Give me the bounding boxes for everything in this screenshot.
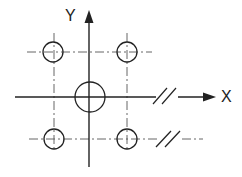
holes: [43, 42, 137, 149]
break-marks: [153, 88, 180, 147]
y-axis-label: Y: [65, 8, 76, 24]
x-axis-arrowhead-icon: [203, 93, 216, 102]
centerline-break-mark-icon: [156, 131, 180, 147]
y-axis-arrowhead-icon: [85, 10, 94, 23]
x-axis-break-mark-icon: [153, 88, 178, 104]
x-axis-label: X: [221, 89, 232, 105]
coordinate-diagram: [0, 0, 242, 177]
